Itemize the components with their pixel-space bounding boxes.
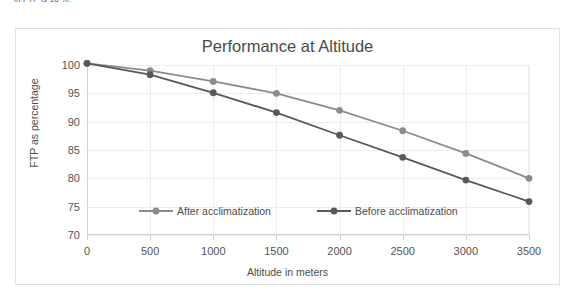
- data-point-marker: [399, 154, 406, 161]
- y-axis-tick-label: 100: [62, 59, 80, 71]
- data-point-marker: [336, 132, 343, 139]
- y-axis-tick-label: 90: [68, 116, 80, 128]
- legend-marker-icon: [139, 205, 173, 217]
- data-point-marker: [273, 90, 280, 97]
- data-point-marker: [210, 78, 217, 85]
- y-axis-tick-label: 80: [68, 172, 80, 184]
- gridline-vertical: [529, 65, 530, 235]
- data-point-marker: [399, 127, 406, 134]
- legend-entry[interactable]: Before acclimatization: [317, 205, 458, 217]
- data-point-marker: [336, 107, 343, 114]
- chart-container: Performance at Altitude FTP as percentag…: [15, 28, 560, 285]
- plot-area: 707580859095100 050010001500200025003000…: [87, 65, 529, 235]
- x-axis-tick-label: 3500: [517, 245, 541, 257]
- x-axis-tick-label: 1500: [264, 245, 288, 257]
- legend-dot-icon: [330, 208, 337, 215]
- x-axis-tick-mark: [340, 235, 341, 240]
- data-point-marker: [462, 177, 469, 184]
- y-axis-title: FTP as percentage: [28, 43, 40, 203]
- legend-label: After acclimatization: [177, 205, 271, 217]
- data-point-marker: [526, 198, 533, 205]
- x-axis-tick-mark: [529, 235, 530, 240]
- y-axis-tick-label: 75: [68, 201, 80, 213]
- data-point-marker: [147, 71, 154, 78]
- data-point-marker: [273, 109, 280, 116]
- x-axis-tick-mark: [276, 235, 277, 240]
- legend-entry[interactable]: After acclimatization: [139, 205, 271, 217]
- data-point-marker: [84, 60, 91, 67]
- legend-marker-icon: [317, 205, 351, 217]
- y-axis-tick-label: 95: [68, 87, 80, 99]
- x-axis-tick-mark: [213, 235, 214, 240]
- x-axis-tick-label: 3000: [454, 245, 478, 257]
- legend-dot-icon: [153, 208, 160, 215]
- data-point-marker: [526, 175, 533, 182]
- gridline-horizontal: [87, 235, 529, 236]
- x-axis-tick-mark: [403, 235, 404, 240]
- x-axis-title: Altitude in meters: [16, 266, 559, 278]
- x-axis-tick-mark: [466, 235, 467, 240]
- x-axis-tick-label: 2000: [327, 245, 351, 257]
- x-axis-tick-label: 1000: [201, 245, 225, 257]
- series-line: [87, 63, 529, 178]
- cropped-body-text: in FTP is 16 %.: [14, 0, 71, 4]
- legend-label: Before acclimatization: [355, 205, 458, 217]
- y-axis-tick-label: 70: [68, 229, 80, 241]
- data-point-marker: [210, 89, 217, 96]
- x-axis-tick-label: 2500: [390, 245, 414, 257]
- chart-legend: After acclimatizationBefore acclimatizat…: [139, 205, 458, 217]
- y-axis-tick-label: 85: [68, 144, 80, 156]
- x-axis-tick-mark: [150, 235, 151, 240]
- x-axis-tick-label: 500: [141, 245, 159, 257]
- x-axis-tick-mark: [87, 235, 88, 240]
- data-point-marker: [462, 150, 469, 157]
- x-axis-tick-label: 0: [84, 245, 90, 257]
- chart-title: Performance at Altitude: [16, 37, 559, 56]
